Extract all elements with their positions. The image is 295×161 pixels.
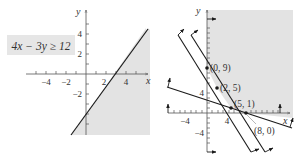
vertex-point (229, 106, 233, 110)
left-x-tick-label: 4 (124, 77, 129, 87)
vertex-label: (5, 1) (234, 99, 255, 110)
right-line-b-indicator-top (191, 30, 198, 35)
left-x-tick-label: −2 (61, 77, 71, 87)
left-x-tick-label: −4 (41, 77, 51, 87)
left-y-tick-label: −2 (72, 89, 82, 99)
left-shaded-region-fill (72, 28, 150, 135)
right-x-axis-label: x (282, 115, 288, 126)
vertex-label: (2, 5) (220, 83, 241, 94)
right-y-axis-label: y (195, 5, 201, 16)
inequality-graphs-figure: 4x − 3y ≥ 12 (0, 0, 295, 161)
left-x-tick-label: 2 (102, 77, 107, 87)
right-line-a-indicator-bottom (251, 149, 259, 152)
inequality-label: 4x − 3y ≥ 12 (12, 40, 71, 53)
right-x-tick-label: −4 (180, 116, 190, 126)
vertex-leader-line (247, 115, 256, 124)
right-line-c-indicator-right (290, 118, 293, 127)
right-line-a-indicator-top (178, 29, 184, 35)
vertex-point (215, 86, 219, 90)
left-y-axis-label: y (75, 6, 81, 17)
right-line-b-indicator-bottom (265, 148, 273, 152)
vertex-point (205, 66, 209, 70)
right-line-c-indicator-left (168, 78, 170, 87)
vertex-label: (0, 9) (210, 63, 231, 74)
vertex-label: (8, 0) (254, 126, 275, 137)
vertex-point (244, 111, 248, 115)
left-graph: 4x − 3y ≥ 12 (7, 6, 151, 135)
left-x-axis-label: x (145, 75, 151, 86)
right-y-tick-label: −4 (194, 128, 204, 138)
left-y-tick-label: 2 (78, 49, 83, 59)
right-y-tick-label: 4 (200, 88, 205, 98)
left-y-tick-label: 4 (78, 29, 83, 39)
right-graph: −4 4 4 −4 x y (0, 9) (2, 5) (5, 1) (8, 0… (167, 5, 293, 152)
